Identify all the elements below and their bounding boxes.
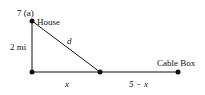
left-segment-label: x: [65, 80, 69, 89]
house-label: House: [37, 18, 60, 27]
problem-label: 7 (a): [17, 9, 34, 18]
corner-point: [30, 70, 35, 75]
junction-point: [98, 70, 103, 75]
cable-box-point: [176, 70, 181, 75]
vertical-edge-label: 2 mi: [10, 43, 26, 52]
hypotenuse-edge: [32, 21, 100, 72]
cable-box-label: Cable Box: [157, 59, 195, 68]
house-point: [30, 19, 35, 24]
hypotenuse-label: d: [67, 37, 72, 46]
right-segment-label: 5 − x: [129, 80, 148, 89]
